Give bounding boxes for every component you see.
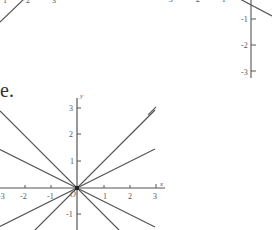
y-tick-label: 2 [69,130,73,139]
x-tick-label: -3 [0,192,5,201]
origin-marker [75,186,79,190]
x-tick-label: -1 [219,0,226,4]
x-tick-label: 3 [52,0,56,5]
y-tick-label: -3 [241,68,248,77]
y-tick-label: 1 [70,157,74,166]
y-tick-label: -2 [241,41,248,50]
top-right-line [238,0,272,16]
top-right-graph: -1 -2 -3 -3 -2 -1 [160,0,272,78]
x-tick-label: -2 [193,0,200,4]
x-tick-label: 1 [103,192,107,201]
x-tick-label: -2 [20,192,27,201]
main-graph: -3 -2 -1 1 2 3 3 2 1 -1 x y O [0,92,165,230]
x-tick-label: 2 [128,192,132,201]
x-tick-label: 1 [3,0,7,5]
x-tick-label: -3 [166,0,173,4]
caption-fragment: e. [0,79,14,101]
y-tick-label: -1 [66,210,73,219]
y-axis-label: y [79,92,84,100]
x-tick-label: 2 [26,0,30,5]
top-left-graph: 1 2 3 [0,0,56,22]
y-tick-label: -1 [241,15,248,24]
y-tick-label: 3 [69,104,73,113]
x-axis-label: x [159,180,164,188]
x-tick-label: 3 [153,192,157,201]
